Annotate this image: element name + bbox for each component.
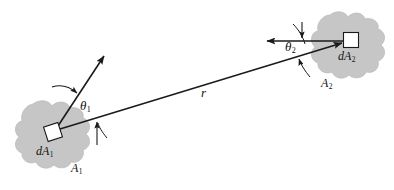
angle-theta1-label: θ1 [80,99,90,112]
view-factor-figure: θ1 θ2 r dA1 dA2 A1 A2 [0,0,394,190]
figure-canvas [0,0,394,190]
surface-A1-label: A1 [71,162,82,174]
angle-theta2-label: θ2 [285,40,295,53]
surface-indicator-arc-1 [98,123,107,138]
element-dA1-label: dA1 [36,145,53,157]
distance-r-label: r [201,86,206,99]
normal-indicator-arc-1 [52,86,77,93]
differential-element-2 [344,33,359,48]
surface-indicator-arc-2 [299,59,310,77]
element-dA2-label: dA2 [338,50,355,62]
surface-A2-label: A2 [321,77,332,89]
